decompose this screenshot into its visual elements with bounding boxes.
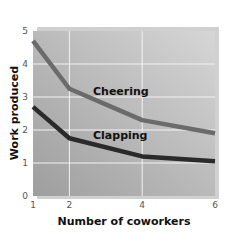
x-tick-label: 1 <box>30 200 36 210</box>
x-tick-label: 2 <box>67 200 73 210</box>
y-tick-label: 2 <box>22 125 28 135</box>
y-axis-label: Work produced <box>8 66 21 160</box>
y-tick-label: 0 <box>22 191 28 201</box>
x-ticks: 1246 <box>30 200 218 210</box>
y-tick-label: 5 <box>22 26 28 36</box>
chart: 012345 1246 Cheering Clapping Number of … <box>0 0 231 233</box>
x-axis-label: Number of coworkers <box>58 215 191 228</box>
series-label-clapping: Clapping <box>93 129 148 142</box>
y-tick-label: 4 <box>22 59 28 69</box>
y-tick-label: 3 <box>22 92 28 102</box>
y-tick-label: 1 <box>22 158 28 168</box>
x-tick-label: 6 <box>212 200 218 210</box>
x-tick-label: 4 <box>139 200 145 210</box>
series-label-cheering: Cheering <box>93 85 149 98</box>
y-ticks: 012345 <box>22 26 28 201</box>
